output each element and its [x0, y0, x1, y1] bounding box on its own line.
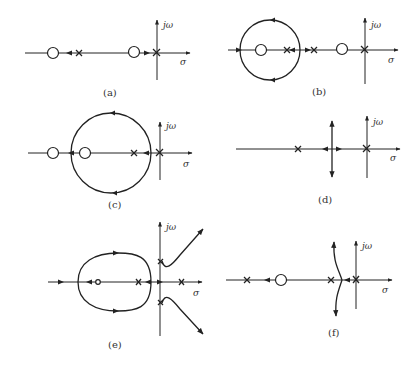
- direction-arrow: [112, 191, 117, 196]
- jw-label: jω: [164, 222, 177, 232]
- caption: (d): [318, 194, 332, 205]
- sigma-label: σ: [183, 159, 190, 169]
- direction-arrow: [143, 151, 149, 156]
- direction-arrow: [289, 48, 295, 53]
- locus-branch-upper: [162, 229, 203, 267]
- direction-arrow: [113, 309, 119, 314]
- direction-arrow: [145, 280, 151, 285]
- zero-marker: [96, 280, 101, 285]
- zero-marker: [337, 44, 348, 55]
- jw-label: jω: [164, 121, 177, 131]
- zero-marker: [48, 48, 59, 59]
- sigma-label: σ: [388, 55, 395, 65]
- caption: (a): [103, 87, 117, 98]
- direction-arrow: [336, 147, 342, 152]
- zero-marker: [48, 148, 59, 159]
- direction-arrow: [86, 280, 92, 285]
- direction-arrow: [270, 18, 275, 23]
- jw-label: jω: [161, 20, 174, 30]
- locus-branch-down: [336, 280, 342, 316]
- direction-arrow: [270, 78, 275, 83]
- panel-a: jω σ (a): [25, 20, 190, 98]
- sigma-label: σ: [193, 288, 200, 298]
- direction-arrow: [144, 51, 150, 56]
- sigma-label: σ: [180, 57, 187, 67]
- panel-f: jω σ (f): [226, 241, 392, 338]
- caption: (f): [328, 327, 340, 338]
- panel-b: jω σ (b): [228, 18, 398, 98]
- direction-arrow: [66, 51, 72, 56]
- direction-arrow: [305, 48, 311, 53]
- direction-arrow: [113, 251, 119, 256]
- caption: (e): [108, 339, 122, 350]
- zero-marker: [80, 148, 91, 159]
- panel-d: jω σ (d): [236, 116, 400, 205]
- zero-marker: [276, 275, 287, 286]
- direction-arrow: [110, 111, 115, 116]
- sigma-label: σ: [382, 285, 389, 295]
- direction-arrow: [236, 48, 242, 53]
- caption: (b): [312, 86, 326, 97]
- direction-arrow: [264, 278, 270, 283]
- locus-branch-lower: [162, 297, 203, 334]
- sigma-label: σ: [390, 153, 397, 163]
- root-locus-figure: jω σ (a) jω σ (b) jω σ (c): [0, 0, 419, 367]
- locus-branch-up: [334, 242, 342, 280]
- zero-marker: [256, 45, 267, 56]
- panel-e: jω σ (e): [48, 222, 203, 350]
- panel-c: jω σ (c): [28, 111, 192, 211]
- zero-marker: [129, 47, 140, 58]
- jw-label: jω: [369, 20, 382, 30]
- jw-label: jω: [371, 117, 384, 127]
- direction-arrow: [322, 147, 328, 152]
- caption: (c): [108, 199, 122, 210]
- jw-label: jω: [360, 241, 373, 251]
- direction-arrow: [58, 280, 64, 285]
- direction-arrow: [344, 278, 350, 283]
